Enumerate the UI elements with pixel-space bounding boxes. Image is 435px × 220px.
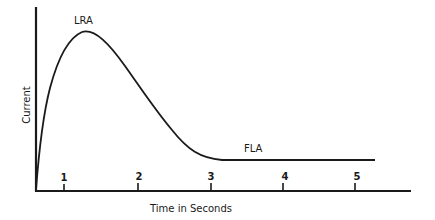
x-ticks: [64, 183, 355, 191]
tick-label-3: 3: [208, 171, 215, 182]
tick-label-1: 1: [61, 172, 68, 183]
tick-label-2: 2: [136, 171, 143, 182]
x-axis-title: Time in Seconds: [149, 203, 232, 214]
current-curve: [36, 31, 375, 190]
lra-label: LRA: [74, 15, 93, 26]
fla-label: FLA: [244, 143, 263, 154]
y-axis-title: Current: [21, 86, 32, 124]
chart-canvas: 1 2 3 4 5 LRA FLA Current Time in Second…: [0, 0, 435, 220]
tick-label-4: 4: [282, 171, 289, 182]
tick-label-5: 5: [354, 171, 361, 182]
